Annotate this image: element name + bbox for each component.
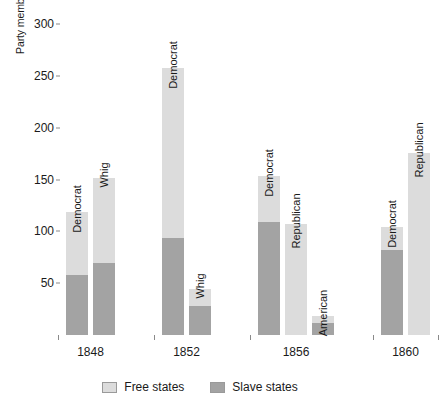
bar-label-text: Democrat [263,149,275,197]
bar-1852-whig: Whig [189,289,211,335]
bar-label-text: Democrat [71,185,83,233]
bar-label-text: Republican [290,194,302,249]
bar-1848-whig: Whig [93,178,115,335]
bar-segment-slave-states [258,222,280,335]
bar-1856-republican: Republican [285,224,307,335]
chart-legend: Free states Slave states [0,380,400,394]
bar-segment-free-states [93,178,115,263]
bar-1848-democrat: Democrat [66,212,88,335]
x-tick-label: 1860 [392,345,419,359]
bar-segment-slave-states [162,238,184,335]
x-tick-label: 1848 [77,345,104,359]
legend-item-slave-states: Slave states [210,380,297,394]
bar-1852-democrat: Democrat [162,68,184,335]
bar-label-text: American [317,290,329,336]
y-tick-mark [56,24,60,25]
x-tick-mark [250,335,251,340]
bar-label-text: Democrat [167,41,179,89]
bar-label-whig: Whig [92,162,104,187]
bar-label-republican: Republican [284,194,296,249]
bar-label-american: American [311,290,323,336]
bar-label-democrat: Democrat [161,41,173,89]
bar-1860-democrat: Democrat [381,227,403,335]
bar-label-democrat: Democrat [257,149,269,197]
bar-label-whig: Whig [188,274,200,299]
y-tick-mark [56,283,60,284]
y-tick-mark [56,127,60,128]
bar-segment-free-states [162,68,184,238]
x-tick-mark [58,335,59,340]
x-tick-label: 1856 [283,345,310,359]
bar-label-text: Republican [413,122,425,177]
bar-1856-democrat: Democrat [258,176,280,335]
bar-segment-slave-states [189,306,211,335]
plot-area: Party members in House of Representative… [60,14,345,335]
bar-segment-free-states [408,153,430,335]
legend-item-free-states: Free states [102,380,184,394]
y-tick-label: 200 [34,121,54,135]
bar-label-republican: Republican [407,122,419,177]
legend-swatch-slave-states [210,382,225,393]
legend-swatch-free-states [102,382,117,393]
bar-1860-republican: Republican [408,153,430,335]
y-tick-label: 250 [34,69,54,83]
legend-label-free-states: Free states [124,380,184,394]
bar-1856-american: American [312,316,334,335]
bar-segment-slave-states [66,275,88,335]
bar-segment-slave-states [93,263,115,335]
y-tick-label: 150 [34,173,54,187]
x-tick-mark [373,335,374,340]
bar-label-democrat: Democrat [380,200,392,248]
y-tick-mark [56,231,60,232]
y-tick-label: 100 [34,224,54,238]
y-axis-title: Party members in House of Representative… [14,0,26,54]
bar-label-text: Whig [194,274,206,299]
bar-label-text: Whig [98,162,110,187]
y-tick-mark [56,76,60,77]
y-tick-label: 50 [41,276,54,290]
bar-label-text: Democrat [386,200,398,248]
y-tick-label: 300 [34,17,54,31]
legend-label-slave-states: Slave states [232,380,297,394]
x-tick-mark [154,335,155,340]
y-tick-mark [56,179,60,180]
bar-segment-slave-states [381,250,403,335]
x-tick-label: 1852 [173,345,200,359]
bar-label-democrat: Democrat [65,185,77,233]
